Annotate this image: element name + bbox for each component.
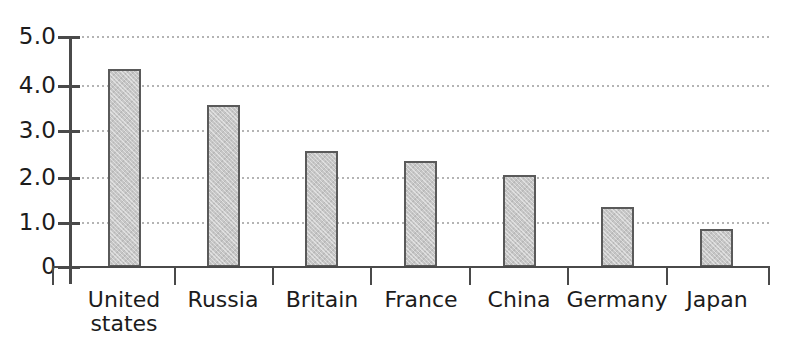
x-axis-tick-6 bbox=[666, 268, 668, 285]
gridline-4 bbox=[72, 85, 770, 87]
gridline-3 bbox=[72, 130, 770, 132]
y-axis-label-3: 3.0 bbox=[4, 119, 56, 142]
x-axis-tick-start bbox=[52, 268, 54, 285]
y-axis-line bbox=[69, 36, 72, 284]
x-axis-tick-end bbox=[768, 268, 770, 285]
bar-united-states bbox=[108, 69, 141, 267]
x-axis-tick-1 bbox=[174, 268, 176, 285]
y-tick-mark-3 bbox=[58, 130, 80, 133]
bar-chart: 5.0 4.0 3.0 2.0 1.0 0 United states Russ… bbox=[0, 0, 791, 351]
y-axis-label-0: 0 bbox=[4, 255, 56, 278]
x-axis-tick-4 bbox=[469, 268, 471, 285]
bar-britain bbox=[305, 151, 338, 267]
y-axis-label-4: 4.0 bbox=[4, 74, 56, 97]
gridline-5 bbox=[72, 36, 770, 38]
x-axis-tick-2 bbox=[272, 268, 274, 285]
x-axis-tick-5 bbox=[567, 268, 569, 285]
bar-france bbox=[404, 161, 437, 267]
x-axis-tick-3 bbox=[370, 268, 372, 285]
y-axis-label-5: 5.0 bbox=[4, 25, 56, 48]
bar-china bbox=[503, 175, 536, 267]
y-tick-mark-1 bbox=[58, 222, 80, 225]
x-axis-label-japan: Japan bbox=[657, 288, 777, 312]
y-tick-mark-4 bbox=[58, 85, 80, 88]
y-tick-mark-5 bbox=[58, 36, 80, 39]
bar-germany bbox=[601, 207, 634, 267]
y-axis-label-2: 2.0 bbox=[4, 166, 56, 189]
bar-russia bbox=[207, 105, 240, 267]
x-axis-line bbox=[52, 266, 770, 268]
bar-japan bbox=[700, 229, 733, 267]
y-tick-mark-2 bbox=[58, 177, 80, 180]
y-axis-label-1: 1.0 bbox=[4, 211, 56, 234]
